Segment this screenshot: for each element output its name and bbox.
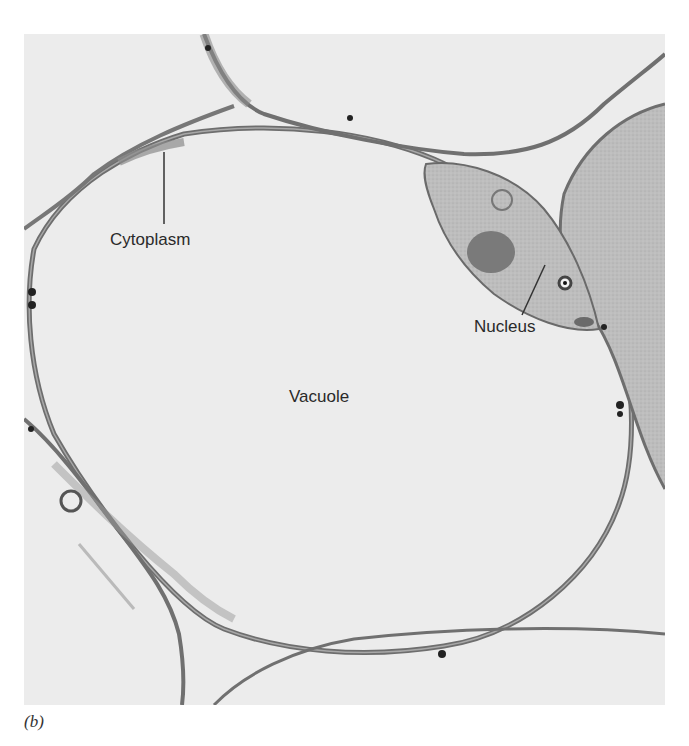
cell-micrograph (24, 34, 665, 705)
nucleus-label: Nucleus (474, 317, 535, 337)
vacuole-label: Vacuole (289, 387, 349, 407)
micrograph-figure: Cytoplasm Nucleus Vacuole (24, 34, 665, 705)
upper-cell-wall (204, 34, 665, 154)
granules (28, 45, 624, 658)
panel-caption: (b) (24, 712, 44, 732)
nucleolus (467, 231, 515, 273)
bottom-neighbor-cell (214, 629, 665, 705)
cytoplasm-label: Cytoplasm (110, 230, 190, 250)
